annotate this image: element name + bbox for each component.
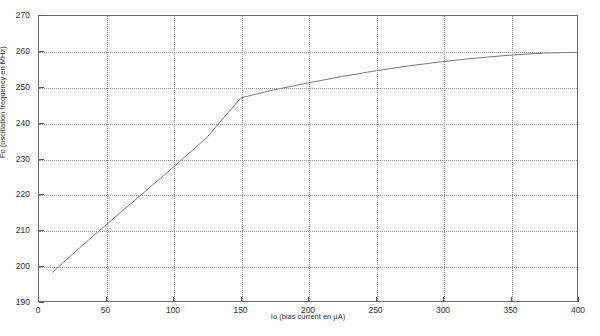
x-tick-label: 250 bbox=[368, 305, 382, 315]
x-tick-label: 300 bbox=[436, 305, 450, 315]
x-tick-label: 400 bbox=[571, 305, 585, 315]
x-tick-label: 50 bbox=[101, 305, 110, 315]
y-tick-label: 210 bbox=[0, 225, 30, 235]
y-tick-label: 200 bbox=[0, 261, 30, 271]
y-axis-label: Fo (oscillation frequency en MHz) bbox=[0, 46, 7, 158]
x-tick-label: 0 bbox=[36, 305, 41, 315]
x-tick-label: 350 bbox=[503, 305, 517, 315]
x-tick-mark bbox=[578, 297, 579, 302]
figure-canvas: 1902002102202302402502602700501001502002… bbox=[0, 0, 600, 336]
x-tick-label: 150 bbox=[233, 305, 247, 315]
plot-area bbox=[38, 15, 578, 302]
y-tick-label: 220 bbox=[0, 189, 30, 199]
y-tick-label: 190 bbox=[0, 297, 30, 307]
x-tick-label: 100 bbox=[166, 305, 180, 315]
y-tick-mark bbox=[39, 302, 44, 303]
y-tick-label: 270 bbox=[0, 10, 30, 20]
x-axis-label: Io (bias current en µA) bbox=[271, 312, 345, 321]
series-line-fo-vs-io bbox=[52, 52, 577, 272]
data-curve-svg bbox=[39, 16, 577, 301]
